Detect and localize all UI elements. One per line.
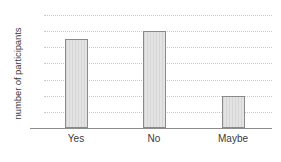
bar-maybe (222, 96, 245, 128)
plot-area: 0 2 4 6 8 10 12 14 (44, 15, 272, 128)
bar-no (143, 31, 166, 128)
bar-yes (65, 39, 88, 128)
x-axis-line (30, 128, 272, 129)
x-tick-label-maybe: Maybe (218, 133, 248, 144)
x-tick-label-no: No (148, 133, 161, 144)
x-tick-label-yes: Yes (68, 133, 84, 144)
bar-chart: number of participants 0 2 4 6 8 10 12 1… (0, 0, 281, 162)
gridline-14 (44, 15, 272, 16)
y-axis-title: number of participants (12, 14, 23, 134)
